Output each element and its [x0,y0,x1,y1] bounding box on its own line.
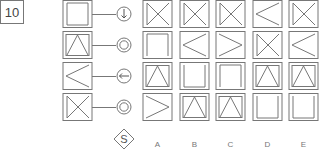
option-a-cell-3[interactable] [142,62,173,90]
option-b-cell-4[interactable] [179,93,210,121]
double-circle-icon [116,37,132,53]
option-e-cell-3[interactable] [288,62,319,90]
option-c-cell-1[interactable] [215,0,246,28]
option-b-cell-3[interactable] [179,62,210,90]
option-d-cell-1[interactable] [252,0,283,28]
question-diamond: S [113,128,135,150]
option-e-cell-1[interactable] [288,0,319,28]
option-e-cell-4[interactable] [288,93,319,121]
option-d-label[interactable]: D [252,140,283,149]
option-a-label[interactable]: A [142,140,173,149]
connector-line [92,14,116,15]
left-cell-1-open-top-square [62,0,93,28]
option-c-cell-4[interactable] [215,93,246,121]
connector-line [92,107,116,108]
double-circle-icon [116,99,132,115]
option-d-cell-4[interactable] [252,93,283,121]
connector-line [92,45,116,46]
option-a-cell-1[interactable] [142,0,173,28]
option-b-cell-1[interactable] [179,0,210,28]
option-c-label[interactable]: C [215,140,246,149]
option-c-cell-2[interactable] [215,31,246,59]
left-cell-2-inverted-v [62,31,93,59]
circle-arrow-left-icon [116,68,132,84]
left-cell-4-bowtie [62,93,93,121]
option-b-label[interactable]: B [179,140,210,149]
question-label: S [120,133,127,145]
option-d-cell-3[interactable] [252,62,283,90]
option-d-cell-2[interactable] [252,31,283,59]
option-a-cell-4[interactable] [142,93,173,121]
connector-line [92,76,116,77]
option-b-cell-2[interactable] [179,31,210,59]
circle-arrow-down-icon [116,6,132,22]
option-c-cell-3[interactable] [215,62,246,90]
option-e-cell-2[interactable] [288,31,319,59]
puzzle-number: 10 [0,0,24,24]
left-cell-3-less-than [62,62,93,90]
option-e-label[interactable]: E [288,140,319,149]
option-a-cell-2[interactable] [142,31,173,59]
